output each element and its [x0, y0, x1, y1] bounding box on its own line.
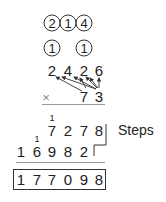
result-digit: 7 — [31, 172, 43, 187]
result-digit: 8 — [93, 172, 105, 187]
partial-product-digit: 8 — [62, 144, 74, 159]
partial-product-digit: 2 — [78, 144, 90, 159]
steps-label: Steps — [118, 123, 154, 137]
rule-line — [16, 162, 105, 163]
result-digit: 7 — [46, 172, 58, 187]
partial-product-digit: 9 — [46, 144, 58, 159]
result-digit: 9 — [78, 172, 90, 187]
result-digit: 0 — [62, 172, 74, 187]
partial-product-digit: 6 — [31, 144, 43, 159]
partial-product-digit: 1 — [15, 144, 27, 159]
result-digit: 1 — [15, 172, 27, 187]
